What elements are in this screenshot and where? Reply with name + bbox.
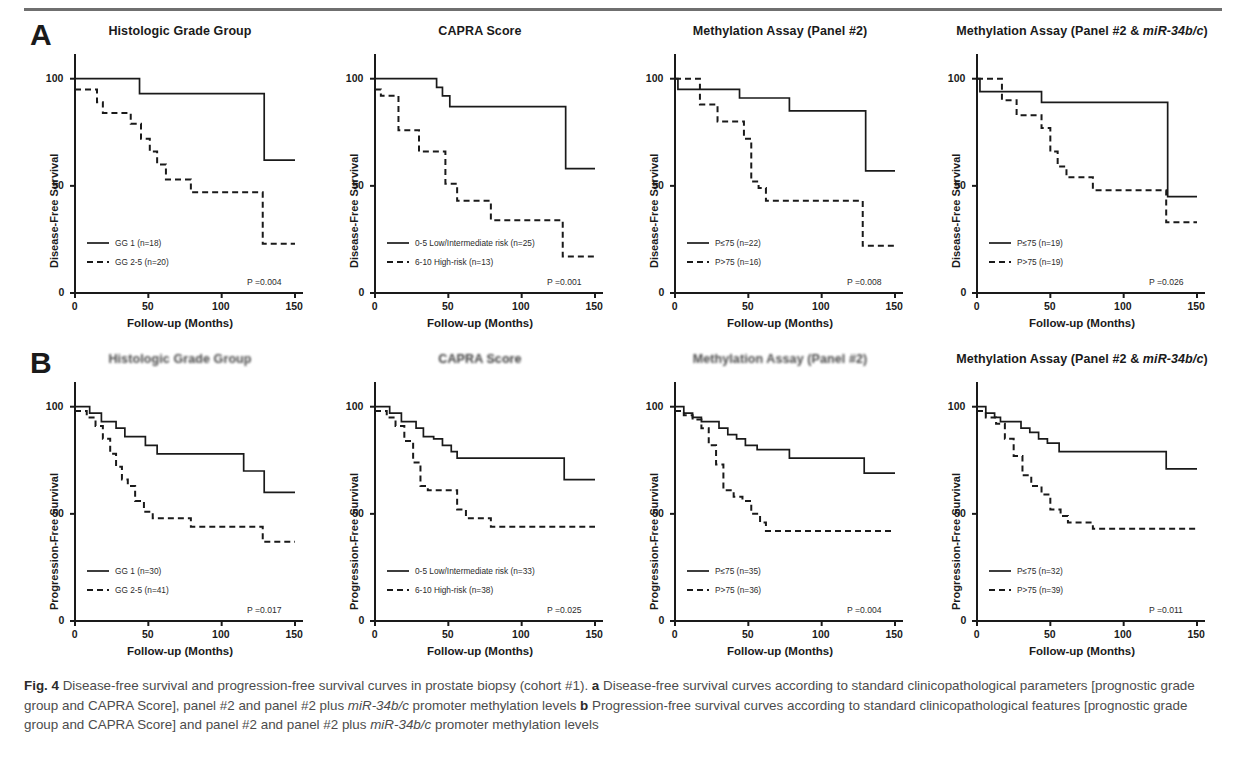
- km-curve-2-dashed: [675, 79, 895, 246]
- x-tick-label-0: 0: [672, 300, 678, 312]
- km-curve-2-dashed: [75, 89, 295, 243]
- x-tick-label-150: 150: [885, 300, 903, 312]
- caption-lead: Disease-free survival and progression-fr…: [59, 678, 592, 693]
- legend-label-1: P≤75 (n=19): [1017, 238, 1063, 248]
- km-curve-1-solid: [375, 79, 595, 169]
- km-panel-b4: Methylation Assay (Panel #2 & miR-34b/c)…: [932, 338, 1232, 668]
- km-curve-2-dashed: [375, 89, 595, 256]
- x-tick-label-0: 0: [372, 628, 378, 640]
- x-tick-label-100: 100: [512, 628, 530, 640]
- y-axis-label: Progression-Free Survival: [348, 473, 360, 610]
- x-tick-label-100: 100: [212, 300, 230, 312]
- legend-label-2: P>75 (n=39): [1017, 585, 1063, 595]
- x-axis-label: Follow-up (Months): [630, 645, 930, 657]
- x-tick-label-0: 0: [372, 300, 378, 312]
- legend-label-1: P≤75 (n=32): [1017, 566, 1063, 576]
- x-tick-label-50: 50: [442, 300, 454, 312]
- x-tick-label-100: 100: [812, 300, 830, 312]
- x-tick-label-100: 100: [512, 300, 530, 312]
- figure-4-container: A B Histologic Grade Group05010005010015…: [0, 0, 1246, 764]
- y-axis-label: Progression-Free Survival: [950, 473, 962, 610]
- p-value-label: P =0.025: [547, 605, 582, 615]
- y-axis-label: Disease-Free Survival: [648, 154, 660, 268]
- y-tick-label-100: 100: [346, 400, 364, 412]
- legend-label-2: P>75 (n=36): [715, 585, 761, 595]
- x-tick-label-50: 50: [1044, 628, 1056, 640]
- x-tick-label-50: 50: [142, 628, 154, 640]
- x-axis-label: Follow-up (Months): [330, 645, 630, 657]
- y-tick-label-0: 0: [59, 614, 65, 626]
- km-curve-2-dashed: [375, 411, 595, 527]
- legend-label-1: 0-5 Low/Intermediate risk (n=25): [415, 238, 535, 248]
- km-panel-a4: Methylation Assay (Panel #2 & miR-34b/c)…: [932, 10, 1232, 340]
- x-tick-label-150: 150: [585, 300, 603, 312]
- plot-area-a2: [330, 10, 630, 340]
- caption-italic-mir-1: miR-34b/c: [348, 698, 409, 713]
- legend-label-1: P≤75 (n=35): [715, 566, 761, 576]
- caption-tail-a: promoter methylation levels: [409, 698, 580, 713]
- y-axis-label: Disease-Free Survival: [48, 154, 60, 268]
- x-tick-label-0: 0: [72, 628, 78, 640]
- y-tick-label-100: 100: [346, 72, 364, 84]
- x-axis-label: Follow-up (Months): [630, 317, 930, 329]
- legend-label-1: 0-5 Low/Intermediate risk (n=33): [415, 566, 535, 576]
- p-value-label: P =0.001: [547, 277, 582, 287]
- km-panel-a2: CAPRA Score050100050100150Disease-Free S…: [330, 10, 630, 340]
- x-tick-label-0: 0: [672, 628, 678, 640]
- y-axis-label: Progression-Free Survival: [648, 473, 660, 610]
- km-curve-2-dashed: [675, 411, 895, 531]
- x-axis-label: Follow-up (Months): [932, 317, 1232, 329]
- legend-label-2: 6-10 High-risk (n=13): [415, 257, 493, 267]
- x-tick-label-50: 50: [142, 300, 154, 312]
- legend-label-2: P>75 (n=16): [715, 257, 761, 267]
- y-tick-label-0: 0: [961, 614, 967, 626]
- p-value-label: P =0.026: [1149, 277, 1184, 287]
- p-value-label: P =0.004: [847, 605, 882, 615]
- y-tick-label-0: 0: [961, 286, 967, 298]
- y-tick-label-100: 100: [646, 72, 664, 84]
- km-panel-b1: Histologic Grade Group050100050100150Pro…: [30, 338, 330, 668]
- legend-label-2: GG 2-5 (n=41): [115, 585, 169, 595]
- y-tick-label-100: 100: [46, 72, 64, 84]
- km-curve-1-solid: [75, 407, 295, 493]
- x-tick-label-100: 100: [1114, 628, 1132, 640]
- caption-tail-b: promoter methylation levels: [431, 717, 598, 732]
- x-tick-label-150: 150: [885, 628, 903, 640]
- y-tick-label-0: 0: [659, 286, 665, 298]
- y-tick-label-100: 100: [46, 400, 64, 412]
- x-tick-label-100: 100: [212, 628, 230, 640]
- y-tick-label-100: 100: [948, 400, 966, 412]
- x-tick-label-100: 100: [1114, 300, 1132, 312]
- x-tick-label-50: 50: [742, 300, 754, 312]
- km-curve-2-dashed: [977, 79, 1197, 223]
- x-tick-label-150: 150: [285, 300, 303, 312]
- km-curve-2-dashed: [977, 411, 1197, 529]
- x-axis-label: Follow-up (Months): [30, 317, 330, 329]
- y-tick-label-100: 100: [646, 400, 664, 412]
- legend-label-1: GG 1 (n=18): [115, 238, 161, 248]
- x-tick-label-0: 0: [974, 628, 980, 640]
- y-tick-label-0: 0: [359, 614, 365, 626]
- y-tick-label-100: 100: [948, 72, 966, 84]
- plot-area-a3: [630, 10, 930, 340]
- km-curve-1-solid: [977, 407, 1197, 469]
- y-tick-label-0: 0: [59, 286, 65, 298]
- legend-label-1: P≤75 (n=22): [715, 238, 761, 248]
- x-tick-label-150: 150: [1187, 300, 1205, 312]
- x-tick-label-50: 50: [742, 628, 754, 640]
- x-tick-label-150: 150: [1187, 628, 1205, 640]
- legend-label-2: P>75 (n=19): [1017, 257, 1063, 267]
- x-axis-label: Follow-up (Months): [30, 645, 330, 657]
- x-tick-label-150: 150: [585, 628, 603, 640]
- x-tick-label-50: 50: [1044, 300, 1056, 312]
- plot-area-b1: [30, 338, 330, 668]
- legend-label-2: 6-10 High-risk (n=38): [415, 585, 493, 595]
- y-tick-label-0: 0: [359, 286, 365, 298]
- x-tick-label-100: 100: [812, 628, 830, 640]
- km-curve-2-dashed: [75, 411, 295, 542]
- plot-area-b2: [330, 338, 630, 668]
- x-tick-label-0: 0: [974, 300, 980, 312]
- figure-caption: Fig. 4 Disease-free survival and progres…: [24, 676, 1224, 735]
- x-axis-label: Follow-up (Months): [330, 317, 630, 329]
- km-panel-a3: Methylation Assay (Panel #2)050100050100…: [630, 10, 930, 340]
